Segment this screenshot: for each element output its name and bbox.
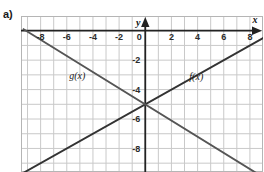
svg-text:-8: -8 (37, 32, 45, 42)
svg-text:6: 6 (221, 32, 226, 42)
svg-text:-6: -6 (63, 32, 71, 42)
svg-text:-2: -2 (115, 32, 123, 42)
graph-figure: a) -8-6-4-202468-2-4-6-8xy f(x)g(x) (0, 0, 264, 172)
svg-text:f(x): f(x) (189, 71, 204, 83)
svg-text:2: 2 (169, 32, 174, 42)
part-label: a) (3, 8, 12, 20)
svg-text:g(x): g(x) (69, 70, 86, 82)
svg-text:-4: -4 (132, 85, 140, 95)
svg-text:0: 0 (137, 32, 142, 42)
svg-text:-4: -4 (89, 32, 97, 42)
svg-text:y: y (135, 17, 141, 28)
svg-text:-8: -8 (132, 144, 140, 154)
plot-svg: -8-6-4-202468-2-4-6-8xy f(x)g(x) (21, 16, 263, 172)
svg-text:-6: -6 (132, 114, 140, 124)
coordinate-plane: -8-6-4-202468-2-4-6-8xy f(x)g(x) (21, 16, 263, 172)
svg-text:x: x (252, 16, 258, 25)
svg-text:8: 8 (247, 32, 252, 42)
svg-text:4: 4 (195, 32, 200, 42)
svg-text:-2: -2 (132, 55, 140, 65)
